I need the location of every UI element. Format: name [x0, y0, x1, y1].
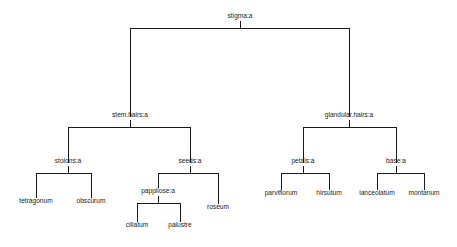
node-label-glandular_hairs: glandular.hairs:a — [325, 111, 374, 119]
leaf-label-montanum: montanum — [408, 189, 440, 196]
node-label-base: base:a — [386, 157, 406, 164]
leaf-label-obscurum: obscurum — [77, 197, 106, 204]
node-label-pappilose: pappilose:a — [141, 187, 175, 195]
node-label-stem_hairs: stem.hairs:a — [112, 111, 148, 118]
leaf-label-parviflorum: parviflorum — [265, 189, 298, 197]
node-label-seeds: seeds:a — [178, 157, 201, 164]
leaf-label-palustre: palustre — [168, 221, 192, 229]
leaf-label-ciliatum: ciliatum — [126, 221, 149, 228]
node-label-petals: petals:a — [291, 157, 314, 165]
classification-tree-figure: stigma:astem.hairs:aglandular.hairs:asto… — [0, 0, 457, 247]
leaf-label-hirsutum: hirsutum — [316, 189, 342, 196]
node-label-stolons: stolons:a — [55, 157, 82, 164]
leaf-label-roseum: roseum — [207, 203, 229, 210]
node-label-stigma: stigma:a — [228, 12, 253, 20]
leaf-label-lanceolatum: lanceolatum — [359, 189, 395, 196]
leaf-label-tetragonum: tetragonum — [19, 197, 53, 205]
